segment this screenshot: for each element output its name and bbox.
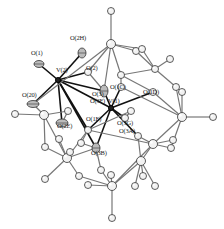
atom-a5 — [167, 56, 174, 63]
atom-a25 — [42, 176, 49, 183]
atom-O2H — [78, 48, 86, 58]
atom-label-V2: V(2) — [56, 67, 67, 74]
atom-label-O1C: O(1C) — [110, 84, 126, 91]
atom-a22 — [76, 173, 83, 180]
atom-O20 — [27, 101, 39, 108]
atom-a15 — [137, 157, 146, 166]
bond-a6-a8 — [155, 69, 176, 87]
atom-O3A — [135, 133, 142, 140]
atom-a20 — [109, 215, 116, 222]
bond-a19-a12 — [112, 144, 153, 186]
atom-a29 — [67, 149, 74, 156]
atom-V2 — [56, 78, 61, 83]
atom-O1 — [34, 61, 44, 68]
atom-a11 — [210, 114, 217, 121]
atom-label-O1E: O(1E) — [86, 116, 101, 123]
atom-a32 — [78, 140, 85, 147]
atom-label-V1: V(1) — [108, 98, 119, 105]
atom-a2 — [107, 40, 116, 49]
atom-a28 — [56, 136, 63, 143]
atom-a7 — [118, 72, 125, 79]
atom-a4 — [139, 46, 146, 53]
atom-layer — [12, 8, 217, 222]
atom-a26 — [12, 111, 19, 118]
atom-label-O3A: O(3A) — [119, 128, 135, 135]
atom-a27 — [40, 111, 49, 120]
atom-a33 — [128, 108, 135, 115]
atom-a19 — [108, 182, 117, 191]
atom-a9 — [179, 89, 186, 96]
atom-a30 — [98, 167, 105, 174]
atom-a18 — [152, 183, 159, 190]
atom-a24 — [42, 144, 49, 151]
atom-a16 — [140, 173, 147, 180]
atom-O1E — [85, 127, 92, 134]
atom-a13 — [170, 137, 177, 144]
bond-a6-a7 — [121, 69, 155, 75]
atom-label-O3G: O(3G) — [117, 120, 133, 127]
atom-label-O2H: O(2H) — [70, 35, 86, 42]
atom-a14 — [168, 145, 175, 152]
bond-a19-a22 — [79, 176, 112, 186]
atom-a1 — [108, 8, 115, 15]
atom-V1 — [109, 106, 114, 111]
molecular-structure-diagram — [0, 0, 224, 229]
bond-V1-O3B — [96, 108, 111, 148]
atom-a12 — [149, 140, 158, 149]
atom-label-O2: O(2) — [86, 65, 97, 72]
atom-a31 — [108, 172, 115, 179]
atom-a34 — [65, 108, 72, 115]
atom-label-O2E: O(2E) — [57, 123, 72, 130]
atom-a8 — [173, 84, 180, 91]
atom-a6 — [152, 66, 159, 73]
atom-a21 — [85, 182, 92, 189]
atom-label-O20: O(20) — [22, 92, 37, 99]
atom-label-O3B: O(3B) — [91, 150, 107, 157]
atom-a10 — [178, 113, 187, 122]
atom-label-O3F: O(3F) — [90, 98, 105, 105]
atom-a17 — [132, 183, 139, 190]
atom-label-O1D: O(1D) — [143, 89, 159, 96]
atom-label-O1: O(1) — [31, 50, 42, 57]
